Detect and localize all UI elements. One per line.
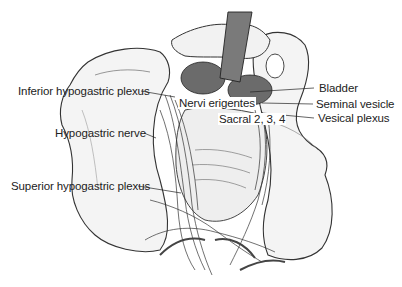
label-superior-hypogastric-plexus: Superior hypogastric plexus: [11, 180, 150, 192]
pubic-region: [172, 24, 270, 58]
bladder-left-lobe: [181, 62, 225, 94]
label-hypogastric-nerve: Hypogastric nerve: [55, 127, 146, 139]
label-nervi-erigentes: Nervi erigentes: [178, 97, 256, 109]
label-vesical-plexus: Vesical plexus: [318, 112, 389, 124]
label-seminal-vesicle: Seminal vesicle: [316, 98, 394, 110]
left-pelvic-bone: [60, 48, 169, 251]
label-inferior-hypogastric-plexus: Inferior hypogastric plexus: [18, 85, 150, 97]
label-bladder: Bladder: [319, 82, 358, 94]
pelvic-anatomy-illustration: [0, 0, 402, 287]
label-sacral-2-3-4: Sacral 2, 3, 4: [218, 113, 286, 125]
